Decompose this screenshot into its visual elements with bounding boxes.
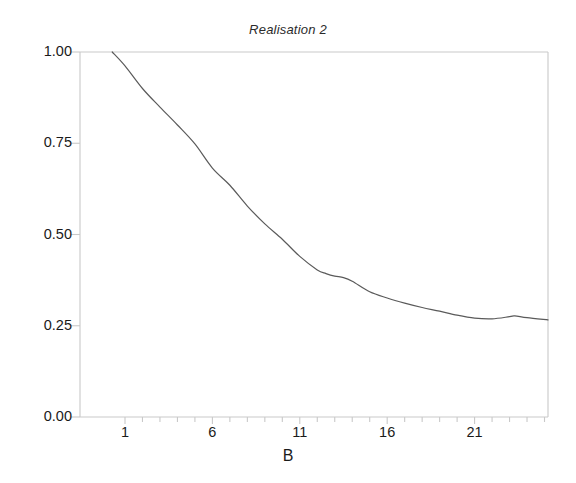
y-tick-label-4: 1.00 <box>14 43 72 59</box>
series-line-0 <box>112 52 548 320</box>
axis-ticks <box>71 52 545 424</box>
y-tick-label-1: 0.25 <box>14 317 72 333</box>
x-tick-label-0: 1 <box>105 424 145 440</box>
y-tick-label-0: 0.00 <box>14 408 72 424</box>
x-tick-label-2: 11 <box>280 424 320 440</box>
data-series <box>112 52 548 320</box>
x-axis-title: B <box>0 447 576 465</box>
y-tick-label-2: 0.50 <box>14 226 72 242</box>
chart-figure: Realisation 2 0.000.250.500.751.00 16111… <box>0 0 576 483</box>
axes-group <box>80 52 548 417</box>
x-tick-label-1: 6 <box>192 424 232 440</box>
y-tick-label-3: 0.75 <box>14 134 72 150</box>
x-tick-label-3: 16 <box>367 424 407 440</box>
x-tick-label-4: 21 <box>455 424 495 440</box>
plot-area <box>0 0 576 483</box>
